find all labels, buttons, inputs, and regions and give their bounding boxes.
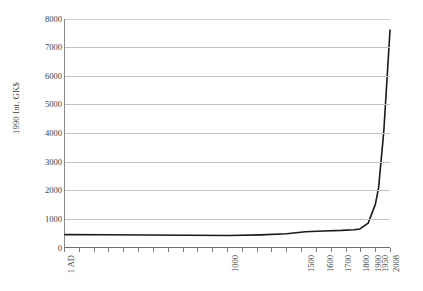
x-tick-label-1600: 1600 <box>326 255 335 272</box>
x-tick-label-1950: 1950 <box>381 255 390 272</box>
x-tick-label-1-ad: 1 AD <box>67 255 76 273</box>
gdp-per-capita-line-chart: 1990 Int. GK$ 01000200030004000500060007… <box>0 0 423 291</box>
x-tick-label-1700: 1700 <box>344 255 353 272</box>
x-tick-label-2008: 2008 <box>392 255 401 272</box>
x-tick-label-1500: 1500 <box>307 255 316 272</box>
x-tick-label-1800: 1800 <box>362 255 371 272</box>
x-tick-label-1000: 1000 <box>231 255 240 272</box>
x-axis-tick-labels: 1 AD10001500160017001800190019502008 <box>0 0 423 291</box>
